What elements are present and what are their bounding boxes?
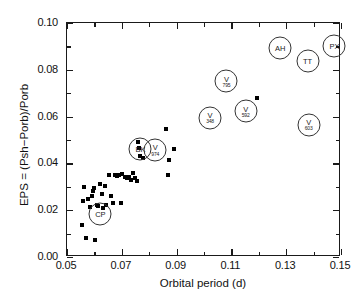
data-point xyxy=(131,171,135,175)
point-label-text: AH xyxy=(275,45,285,52)
axis-tick xyxy=(333,23,339,24)
axis-tick xyxy=(286,23,287,29)
data-point xyxy=(98,182,102,186)
x-tick-label: 0.09 xyxy=(165,259,186,271)
data-point xyxy=(86,197,90,201)
axis-tick xyxy=(67,70,73,71)
axis-tick xyxy=(231,249,232,255)
data-point xyxy=(90,194,94,198)
axis-tick xyxy=(333,163,339,164)
data-point xyxy=(167,158,171,162)
axis-tick xyxy=(314,252,315,256)
data-points-layer: CPBKV974V348V795V592AHTTV603PX xyxy=(67,23,339,255)
x-tick-label: 0.11 xyxy=(220,259,240,271)
labeled-data-point: V603 xyxy=(297,113,320,136)
axis-tick xyxy=(67,234,71,235)
scatter-plot-figure: CPBKV974V348V795V592AHTTV603PX 0.050.070… xyxy=(0,0,356,307)
point-label-text: TT xyxy=(303,58,312,65)
data-point xyxy=(100,192,104,196)
data-point xyxy=(109,194,113,198)
labeled-data-point: V592 xyxy=(234,100,257,123)
data-point xyxy=(92,186,96,190)
axis-tick xyxy=(336,46,340,47)
data-point xyxy=(84,236,88,240)
data-point xyxy=(93,238,97,242)
axis-tick xyxy=(67,140,71,141)
axis-tick xyxy=(259,23,260,27)
data-point xyxy=(166,173,170,177)
data-point xyxy=(255,96,259,100)
data-point xyxy=(111,201,115,205)
axis-tick xyxy=(67,210,73,211)
y-tick-label: 0.02 xyxy=(8,203,58,215)
data-point xyxy=(103,184,107,188)
y-tick-label: 0.06 xyxy=(8,110,58,122)
axis-tick xyxy=(333,257,339,258)
x-tick-label: 0.15 xyxy=(330,259,351,271)
axis-tick xyxy=(231,23,232,29)
labeled-data-point: PX xyxy=(323,35,346,58)
labeled-data-point: AH xyxy=(269,37,292,60)
data-point xyxy=(135,179,139,183)
point-label-text: CP xyxy=(95,211,105,218)
axis-tick xyxy=(336,140,340,141)
axis-tick xyxy=(341,249,342,255)
axis-tick xyxy=(333,70,339,71)
axis-tick xyxy=(177,249,178,255)
x-tick-label: 0.13 xyxy=(275,259,296,271)
axis-tick xyxy=(122,249,123,255)
data-point xyxy=(119,201,123,205)
axis-tick xyxy=(149,23,150,27)
x-axis-title: Orbital period (d) xyxy=(66,277,340,289)
axis-tick xyxy=(67,23,73,24)
axis-tick xyxy=(67,117,73,118)
axis-tick xyxy=(149,252,150,256)
data-point xyxy=(172,147,176,151)
x-tick-label: 0.07 xyxy=(110,259,131,271)
axis-tick xyxy=(286,249,287,255)
axis-tick xyxy=(259,252,260,256)
axis-tick xyxy=(67,46,71,47)
y-tick-label: 0.00 xyxy=(8,250,58,262)
axis-tick xyxy=(336,187,340,188)
data-point xyxy=(80,223,84,227)
point-label-text: 603 xyxy=(305,126,313,131)
point-label-text: 795 xyxy=(223,82,231,87)
data-point xyxy=(164,127,168,131)
axis-tick xyxy=(336,234,340,235)
plot-area: CPBKV974V348V795V592AHTTV603PX xyxy=(66,22,340,256)
x-tick-label: 0.05 xyxy=(56,259,77,271)
labeled-data-point: V974 xyxy=(144,138,167,161)
axis-tick xyxy=(67,249,68,255)
axis-tick xyxy=(204,23,205,27)
axis-tick xyxy=(67,163,73,164)
axis-tick xyxy=(122,23,123,29)
axis-tick xyxy=(67,187,71,188)
axis-tick xyxy=(177,23,178,29)
data-point xyxy=(107,173,111,177)
point-label-text: 974 xyxy=(151,151,159,156)
labeled-data-point: CP xyxy=(89,203,112,226)
axis-tick xyxy=(204,252,205,256)
axis-tick xyxy=(341,23,342,29)
axis-tick xyxy=(67,93,71,94)
y-tick-label: 0.10 xyxy=(8,16,58,28)
point-label-text: 348 xyxy=(206,119,214,124)
axis-tick xyxy=(333,117,339,118)
axis-tick xyxy=(94,23,95,27)
axis-tick xyxy=(67,257,73,258)
point-label-text: 592 xyxy=(242,113,250,118)
y-tick-label: 0.04 xyxy=(8,156,58,168)
labeled-data-point: V795 xyxy=(215,70,238,93)
labeled-data-point: V348 xyxy=(199,106,222,129)
data-point xyxy=(81,199,85,203)
axis-tick xyxy=(336,93,340,94)
y-tick-label: 0.08 xyxy=(8,63,58,75)
axis-tick xyxy=(314,23,315,27)
y-axis-title: EPS = (Psh−Porb)/Porb xyxy=(18,25,30,265)
axis-tick xyxy=(94,252,95,256)
labeled-data-point: TT xyxy=(296,50,319,73)
data-point xyxy=(82,185,86,189)
axis-tick xyxy=(333,210,339,211)
